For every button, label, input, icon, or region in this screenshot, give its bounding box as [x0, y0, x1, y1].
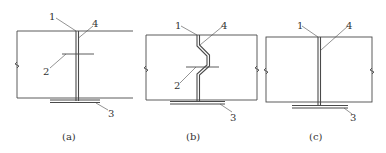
- panel-b-label-2: 2: [174, 80, 180, 91]
- panel-b-leader-2: [180, 67, 196, 83]
- panel-c-outline: [266, 37, 372, 102]
- panel-b-outline: [146, 35, 257, 100]
- panel-a-leader-3: [96, 103, 108, 110]
- panel-b-joint-line-1: [197, 35, 207, 102]
- panel-b-label-1: 1: [175, 20, 181, 31]
- panel-c-caption: (c): [309, 131, 323, 142]
- panel-c-label-1: 1: [297, 20, 303, 31]
- panel-a-leader-2: [50, 54, 66, 68]
- panel-b-leader-4: [200, 26, 223, 45]
- panel-a-caption: (a): [62, 131, 76, 142]
- panel-a-label-2: 2: [43, 66, 49, 77]
- panel-b-joint-line-2: [200, 35, 210, 102]
- panel-a-label-4: 4: [92, 18, 98, 29]
- panel-c: [264, 26, 374, 114]
- panel-b-caption: (b): [186, 131, 200, 142]
- panel-c-label-3: 3: [350, 112, 356, 123]
- panel-a: [15, 18, 133, 110]
- panel-b: [144, 26, 259, 112]
- panel-a-leader-1: [56, 18, 76, 31]
- panel-b-leader-1: [181, 26, 197, 35]
- panel-b-label-4: 4: [221, 20, 227, 31]
- panel-b-leader-3: [220, 104, 232, 112]
- figure-canvas: 1 4 2 3 (a) 1 4 2 3 (b) 1 4 3 (c): [0, 0, 386, 153]
- panel-a-outline: [17, 31, 133, 98]
- panel-c-label-4: 4: [346, 20, 352, 31]
- panel-a-leader-4: [79, 26, 94, 38]
- panel-b-label-3: 3: [230, 112, 236, 123]
- panel-c-leader-4: [321, 26, 348, 50]
- panel-a-label-3: 3: [108, 108, 114, 119]
- panel-a-label-1: 1: [49, 11, 55, 22]
- panel-c-leader-1: [302, 26, 318, 37]
